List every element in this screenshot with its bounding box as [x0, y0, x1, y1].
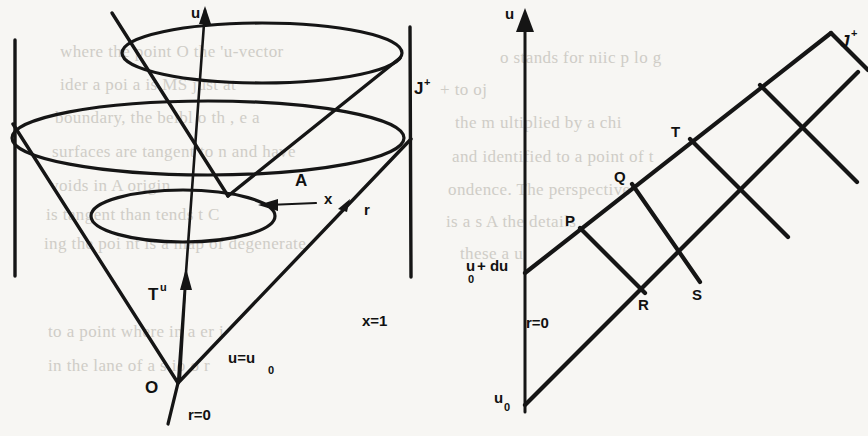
svg-text:u: u — [494, 389, 503, 406]
figure-page: where the point O the 'u-vectorider a po… — [0, 0, 868, 436]
r-zero-label-right: r=0 — [526, 314, 549, 331]
u-axis-arrowhead-left — [199, 6, 211, 24]
cross-null-ray-2 — [632, 184, 700, 282]
right-panel: u J + r=0 u 0 + du u 0 P Q T R S — [466, 5, 868, 413]
cross-null-ray-4 — [760, 85, 857, 182]
lower-cross-section-circle — [91, 190, 275, 242]
x-equals-one-label: x=1 — [362, 312, 387, 329]
cone-generator-left — [13, 124, 178, 383]
left-panel: u J + A x r T u O r=0 u=u 0 x=1 — [12, 4, 430, 424]
area-label-A: A — [295, 171, 307, 190]
r-vector-arrowhead — [338, 199, 350, 212]
scri-plus-label-left: J + — [414, 76, 430, 98]
u0-label: u 0 — [494, 389, 510, 413]
u-axis-label-right: u — [505, 5, 514, 22]
lower-null-ray — [525, 72, 858, 405]
point-label-T: T — [671, 123, 680, 140]
point-label-S: S — [692, 286, 702, 303]
upper-cross-section-circle — [122, 23, 402, 83]
svg-text:J: J — [840, 32, 850, 51]
svg-text:0: 0 — [504, 401, 510, 413]
u-axis-label-left: u — [191, 4, 200, 21]
point-label-R: R — [638, 296, 649, 313]
svg-text:u=u: u=u — [228, 349, 255, 366]
svg-text:+: + — [424, 76, 430, 88]
svg-text:T: T — [148, 285, 159, 304]
r-zero-line-left — [168, 383, 178, 424]
figure-svg: u J + A x r T u O r=0 u=u 0 x=1 — [0, 0, 868, 436]
r-vector-label: r — [364, 201, 370, 218]
svg-text:u: u — [466, 257, 475, 274]
u-axis-arrowhead-right — [516, 8, 534, 32]
tangent-vector-arrowhead — [180, 268, 192, 290]
u-equals-u0-label: u=u 0 — [228, 349, 274, 376]
cross-null-ray-3 — [690, 139, 788, 237]
svg-text:+: + — [851, 27, 857, 39]
point-label-P: P — [565, 212, 575, 229]
origin-label-O: O — [145, 378, 158, 397]
x-vector-label: x — [324, 190, 333, 207]
point-label-Q: Q — [614, 168, 626, 185]
tangent-vector-label: T u — [148, 281, 167, 304]
scri-plus-label-right: J + — [840, 27, 857, 51]
svg-text:J: J — [414, 79, 423, 98]
svg-text:0: 0 — [468, 273, 474, 285]
cross-null-ray-1 — [580, 228, 645, 293]
svg-text:+ du: + du — [477, 257, 508, 274]
u0-plus-du-label: u 0 + du — [466, 257, 508, 285]
right-scri-line — [410, 27, 411, 277]
cross-null-ray-5 — [831, 33, 868, 70]
svg-text:u: u — [160, 281, 167, 293]
svg-text:0: 0 — [268, 364, 274, 376]
r-zero-label-left: r=0 — [188, 406, 211, 423]
